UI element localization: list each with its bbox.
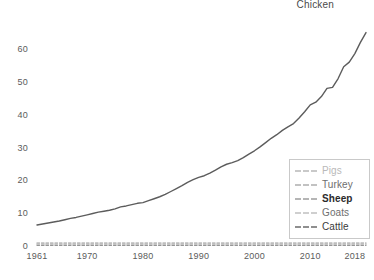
series-label-chicken: Chicken <box>297 0 335 10</box>
x-axis: 1961197019801990200020102018 <box>0 251 374 267</box>
legend-label-sheep: Sheep <box>322 192 353 206</box>
legend-swatch-cattle <box>295 226 317 228</box>
x-tick-label: 2018 <box>344 251 365 261</box>
chart-container: 0102030405060 19611970198019902000201020… <box>0 0 374 280</box>
legend-label-turkey: Turkey <box>322 178 353 192</box>
x-tick-label: 1990 <box>188 251 209 261</box>
x-tick-label: 1961 <box>27 251 48 261</box>
legend-item-turkey[interactable]: Turkey <box>295 178 363 192</box>
x-tick-label: 2000 <box>244 251 265 261</box>
legend-swatch-goats <box>295 212 317 214</box>
chart-legend[interactable]: Pigs Turkey Sheep Goats Cattle <box>289 159 370 239</box>
legend-swatch-pigs <box>295 170 317 172</box>
x-tick-label: 1970 <box>77 251 98 261</box>
legend-item-goats[interactable]: Goats <box>295 206 363 220</box>
legend-label-goats: Goats <box>322 206 349 220</box>
legend-swatch-turkey <box>295 184 317 186</box>
x-tick-label: 1980 <box>133 251 154 261</box>
legend-label-cattle: Cattle <box>322 220 349 234</box>
legend-item-pigs[interactable]: Pigs <box>295 164 363 178</box>
legend-label-pigs: Pigs <box>322 164 342 178</box>
legend-swatch-sheep <box>295 198 317 200</box>
legend-item-sheep[interactable]: Sheep <box>295 192 363 206</box>
legend-item-cattle[interactable]: Cattle <box>295 220 363 234</box>
x-tick-label: 2010 <box>300 251 321 261</box>
